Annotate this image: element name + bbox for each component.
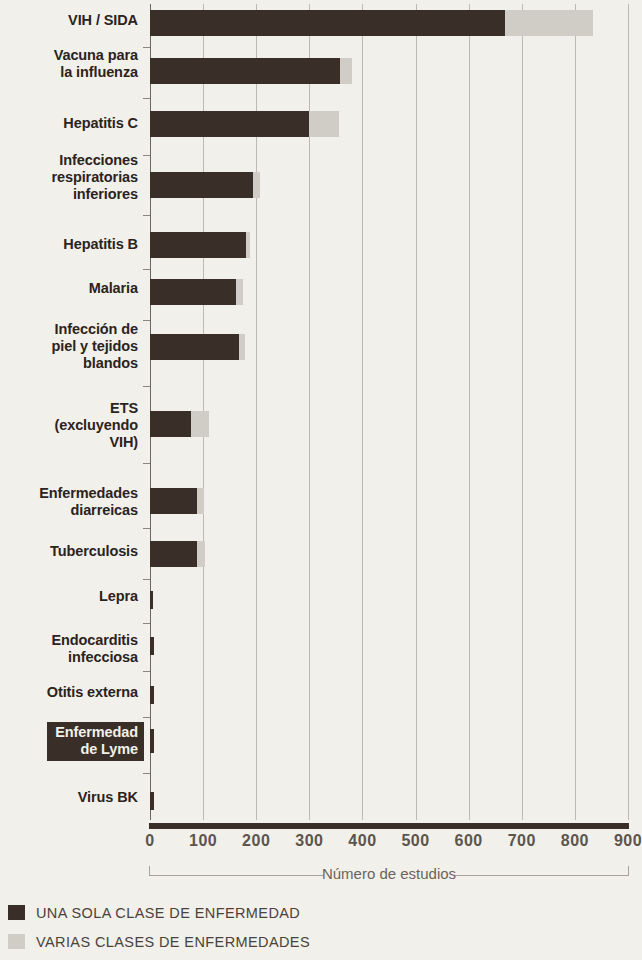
category-label: Vacuna para la influenza [54, 47, 138, 81]
bar-segment [150, 488, 197, 514]
bar-segment [150, 637, 154, 655]
bar-segment [309, 111, 339, 137]
bar-row [150, 591, 628, 609]
x-tick-label-600: 600 [455, 832, 483, 850]
legend-label: VARIAS CLASES DE ENFERMEDADES [36, 934, 310, 950]
category-label: Virus BK [78, 789, 138, 806]
x-tick-label-100: 100 [189, 832, 217, 850]
legend-swatch [8, 905, 25, 920]
horizontal-bar-chart: VIH / SIDAVacuna para la influenzaHepati… [0, 0, 635, 830]
bar-segment [505, 10, 593, 36]
bar-row [150, 488, 628, 514]
x-tick-label-200: 200 [242, 832, 270, 850]
bar-row [150, 111, 628, 137]
bar-segment [197, 488, 204, 514]
legend-swatch [8, 934, 25, 949]
bar-row [150, 10, 628, 36]
category-tick [143, 671, 150, 672]
bar-segment [150, 279, 236, 305]
bar-row [150, 58, 628, 84]
category-tick [143, 320, 150, 321]
bar-segment [236, 279, 243, 305]
bar-row [150, 729, 628, 753]
bar-row [150, 686, 628, 704]
bar-segment [191, 411, 209, 437]
bar-segment [340, 58, 352, 84]
bar-segment [246, 232, 250, 258]
category-tick [143, 717, 150, 718]
chart-legend: UNA SOLA CLASE DE ENFERMEDADVARIAS CLASE… [8, 898, 628, 956]
category-label: Lepra [99, 588, 138, 605]
x-tick-label-700: 700 [508, 832, 536, 850]
bar-segment [253, 172, 260, 198]
bar-row [150, 279, 628, 305]
category-label: Infección de piel y tejidos blandos [52, 321, 138, 372]
category-tick [143, 386, 150, 387]
category-label-highlighted: Enfermedad de Lyme [47, 722, 144, 761]
bar-row [150, 541, 628, 567]
x-tick-label-400: 400 [348, 832, 376, 850]
category-label: Malaria [89, 280, 138, 297]
category-label: Enfermedades diarreicas [39, 485, 138, 519]
category-tick [143, 463, 150, 464]
bar-row [150, 334, 628, 360]
bar-segment [239, 334, 245, 360]
x-tick-label-0: 0 [145, 832, 154, 850]
category-tick [143, 155, 150, 156]
legend-item: UNA SOLA CLASE DE ENFERMEDAD [8, 898, 628, 927]
category-tick [143, 773, 150, 774]
bar-segment [150, 172, 253, 198]
x-tick-label-500: 500 [401, 832, 429, 850]
category-tick [143, 269, 150, 270]
x-tick-label-300: 300 [295, 832, 323, 850]
bar-segment [150, 411, 191, 437]
bar-row [150, 637, 628, 655]
bar-segment [150, 729, 154, 753]
category-label: Infecciones respiratorias inferiores [51, 152, 138, 203]
gridline-900 [628, 4, 629, 820]
category-tick [143, 47, 150, 48]
category-label: Tuberculosis [50, 543, 138, 560]
plot-area [150, 4, 628, 820]
x-tick-label-900: 900 [614, 832, 642, 850]
x-axis-line [149, 823, 629, 829]
category-label: ETS (excluyendo VIH) [54, 400, 138, 451]
bar-segment [150, 111, 309, 137]
x-axis-title: Número de estudios [149, 865, 629, 882]
category-tick [143, 98, 150, 99]
category-label: Otitis externa [47, 684, 138, 701]
bar-row [150, 172, 628, 198]
category-tick [143, 623, 150, 624]
legend-item: VARIAS CLASES DE ENFERMEDADES [8, 927, 628, 956]
bar-segment [150, 10, 505, 36]
category-label: Endocarditis infecciosa [51, 632, 138, 666]
category-tick [143, 528, 150, 529]
bar-row [150, 232, 628, 258]
bar-segment [150, 686, 154, 704]
legend-label: UNA SOLA CLASE DE ENFERMEDAD [36, 905, 300, 921]
bar-segment [150, 232, 246, 258]
bar-segment [197, 541, 205, 567]
category-label: VIH / SIDA [68, 12, 138, 29]
category-tick [143, 215, 150, 216]
bar-row [150, 792, 628, 810]
bar-segment [150, 591, 153, 609]
category-tick [143, 579, 150, 580]
bar-segment [150, 334, 239, 360]
bar-row [150, 411, 628, 437]
x-tick-label-800: 800 [561, 832, 589, 850]
category-label: Hepatitis C [63, 115, 138, 132]
bar-segment [150, 792, 154, 810]
bar-segment [150, 58, 340, 84]
bar-segment [150, 541, 197, 567]
x-axis-title-bracket: Número de estudios [149, 862, 629, 886]
category-label: Hepatitis B [63, 236, 138, 253]
